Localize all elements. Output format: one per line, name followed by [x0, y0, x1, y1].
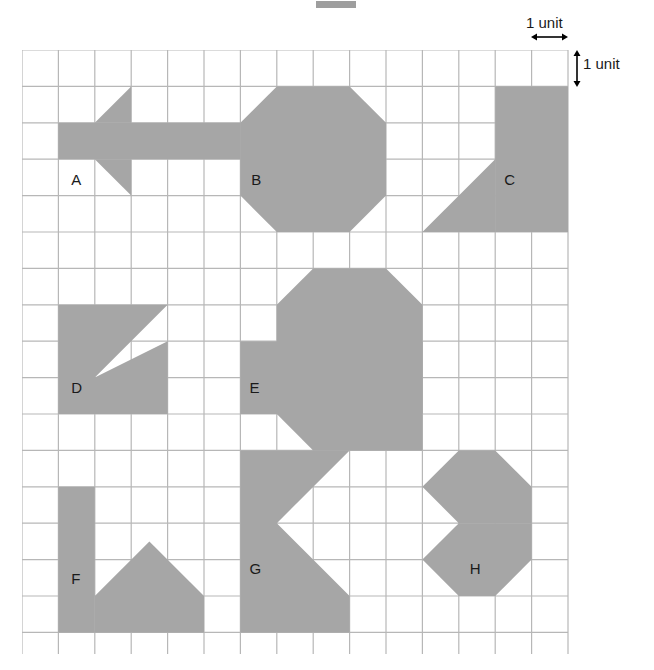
legend-vertical-arrow-icon	[571, 50, 583, 87]
shape-region	[58, 123, 240, 159]
shape-region	[95, 596, 204, 632]
top-gray-marker	[316, 1, 356, 8]
shape-region	[58, 305, 167, 414]
shape-grid-figure	[22, 50, 569, 654]
shape-region	[95, 86, 131, 122]
shape-region	[422, 523, 531, 596]
shape-region	[277, 268, 423, 450]
shape-region	[58, 487, 94, 633]
shape-a	[58, 86, 240, 195]
shape-region	[240, 86, 386, 232]
shape-region	[95, 541, 204, 596]
shape-g	[240, 450, 349, 632]
shape-region	[240, 450, 349, 632]
shape-region	[95, 159, 131, 195]
shape-region	[495, 86, 568, 232]
shape-b	[240, 86, 386, 232]
legend-vertical-label: 1 unit	[583, 55, 620, 72]
shape-e	[240, 268, 422, 450]
legend-horizontal-label: 1 unit	[526, 14, 563, 31]
legend-horizontal-arrow-icon	[531, 31, 568, 43]
shape-region	[422, 450, 531, 523]
shape-d	[58, 305, 167, 414]
